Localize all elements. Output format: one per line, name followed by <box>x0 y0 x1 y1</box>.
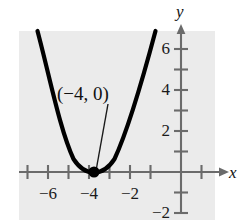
y-tick-label-2: 2 <box>152 121 170 141</box>
vertex-point-annotation: (−4, 0) <box>57 83 109 105</box>
x-axis-label: x <box>229 163 237 183</box>
y-axis <box>177 24 186 213</box>
x-axis <box>19 168 229 177</box>
y-axis-label: y <box>176 2 184 22</box>
x-tick-label-minus6: −6 <box>39 184 57 204</box>
vertex-point-marker <box>88 166 99 177</box>
y-tick-label-6: 6 <box>152 39 170 59</box>
y-tick-label-4: 4 <box>152 80 170 100</box>
y-tick-label-minus2: −2 <box>142 203 170 220</box>
figure-container: ) <box>0 0 244 220</box>
x-tick-label-minus4: −4 <box>80 184 98 204</box>
x-tick-label-minus2: −2 <box>121 184 139 204</box>
annotation-leader-line <box>97 104 109 168</box>
